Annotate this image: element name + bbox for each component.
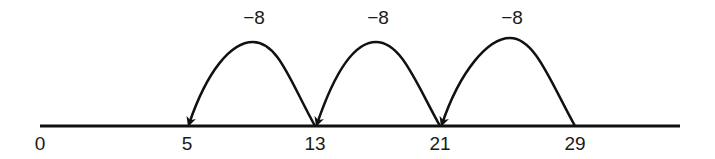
jump-arrow-13-to-5 [189, 42, 315, 126]
jump-arcs [189, 38, 575, 126]
jump-label: −8 [243, 7, 265, 28]
tick-labels: 05132129 [35, 133, 586, 154]
tick-label-0: 0 [35, 133, 46, 154]
tick-label-29: 29 [564, 133, 585, 154]
jump-label: −8 [367, 7, 389, 28]
number-line-diagram: 05132129 −8−8−8 [0, 0, 715, 159]
tick-label-13: 13 [304, 133, 325, 154]
tick-label-21: 21 [429, 133, 450, 154]
jump-label: −8 [501, 7, 523, 28]
jump-arrow-29-to-21 [442, 38, 575, 126]
tick-label-5: 5 [182, 133, 193, 154]
jump-arrow-21-to-13 [317, 42, 440, 126]
jump-labels: −8−8−8 [243, 7, 523, 28]
